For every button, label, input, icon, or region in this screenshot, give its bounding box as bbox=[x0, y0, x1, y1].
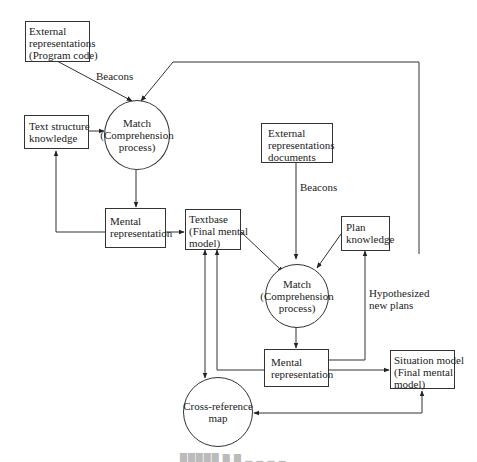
node-text: (Comprehension bbox=[260, 290, 333, 302]
node-text: Mental bbox=[271, 356, 322, 368]
node-text: Mental bbox=[110, 215, 161, 227]
node-text: knowledge bbox=[346, 233, 385, 245]
label-text: new plans bbox=[369, 299, 429, 311]
situation-model-final-mental-model-box: Situation model (Final mental model) bbox=[390, 350, 455, 389]
node-text: Text structure bbox=[29, 120, 84, 132]
external-representations-program-code-box: External representations (Program code) bbox=[25, 21, 90, 62]
node-text: model) bbox=[189, 237, 237, 249]
node-text: representations bbox=[268, 139, 326, 151]
match-comprehension-process-circle-1: Match (Comprehension process) bbox=[104, 100, 170, 170]
node-text: External bbox=[268, 127, 326, 139]
textbase-final-mental-model-box: Textbase (Final mental model) bbox=[185, 209, 241, 250]
node-text: External bbox=[29, 25, 86, 37]
node-text: Textbase bbox=[189, 213, 237, 225]
node-text: Situation model bbox=[394, 354, 451, 366]
node-text: Cross-reference bbox=[183, 400, 253, 412]
label-text: Hypothesized bbox=[369, 287, 429, 299]
node-text: map bbox=[209, 412, 228, 424]
match-comprehension-process-circle-2: Match (Comprehension process) bbox=[265, 264, 329, 328]
beacons-label-1: Beacons bbox=[96, 70, 133, 82]
node-text: (Final mental bbox=[394, 366, 451, 378]
hypothesized-new-plans-label: Hypothesized new plans bbox=[369, 287, 429, 311]
node-text: process) bbox=[119, 141, 156, 153]
mental-representation-box-2: Mental representation bbox=[264, 349, 329, 387]
text-structure-knowledge-box: Text structure knowledge bbox=[24, 115, 89, 149]
cross-reference-map-circle: Cross-reference map bbox=[183, 377, 253, 447]
mental-representation-box-1: Mental representation bbox=[105, 208, 166, 248]
node-text: model) bbox=[394, 378, 451, 390]
node-text: process) bbox=[279, 302, 316, 314]
node-text: (Program code) bbox=[29, 49, 86, 61]
node-text: Plan bbox=[346, 221, 385, 233]
node-text: documents bbox=[268, 151, 326, 163]
node-text: representation bbox=[271, 368, 322, 380]
plan-knowledge-box: Plan knowledge bbox=[341, 216, 390, 251]
node-text: Match bbox=[123, 117, 151, 129]
node-text: knowledge bbox=[29, 132, 84, 144]
beacons-label-2: Beacons bbox=[300, 181, 337, 193]
node-text: (Comprehension bbox=[100, 129, 173, 141]
node-text: Match bbox=[283, 278, 311, 290]
node-text: representations bbox=[29, 37, 86, 49]
node-text: (Final mental bbox=[189, 225, 237, 237]
external-representations-documents-box: External representations documents bbox=[261, 123, 333, 163]
figure-caption-faded: ▇▇▇▇▇ ▆.▆ ▁ ▁ ▁ ▁ bbox=[180, 452, 287, 462]
node-text: representation bbox=[110, 227, 161, 239]
